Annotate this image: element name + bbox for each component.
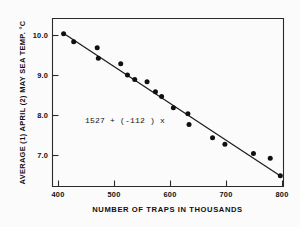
scatter-point: [251, 151, 256, 156]
scatter-point: [268, 156, 273, 161]
regression-line: [63, 33, 281, 176]
y-axis-ticks: [53, 36, 59, 156]
scatter-point: [118, 61, 123, 66]
scatter-point: [95, 45, 100, 50]
scatter-point: [71, 39, 76, 44]
scatter-point: [210, 135, 215, 140]
scatter-point: [159, 94, 164, 99]
x-axis-ticks: [59, 181, 283, 187]
scatter-point: [153, 89, 158, 94]
scatter-point: [187, 122, 192, 127]
plot-area: [0, 0, 300, 227]
scatter-point: [96, 56, 101, 61]
scatter-point: [185, 111, 190, 116]
scatter-point: [171, 105, 176, 110]
scatter-point: [145, 79, 150, 84]
scatter-point: [125, 73, 130, 78]
scatter-point: [61, 31, 66, 36]
scatter-point: [278, 173, 283, 178]
scatter-point: [132, 77, 137, 82]
regression-line-path: [63, 33, 281, 176]
figure: AVERAGE (1) APRIL (2) MAY SEA TEMP. °C 1…: [0, 0, 300, 227]
scatter-point: [222, 142, 227, 147]
